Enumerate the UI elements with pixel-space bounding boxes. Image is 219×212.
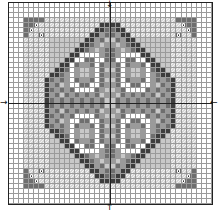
top-center-arrow-icon: ↓ [106,0,114,9]
stitch-cell [207,199,212,204]
left-center-arrow-icon: → [0,98,8,107]
bottom-center-arrow-icon: ↑ [106,203,114,212]
horizontal-center-line [8,103,213,104]
right-center-arrow-icon: ← [210,98,218,107]
